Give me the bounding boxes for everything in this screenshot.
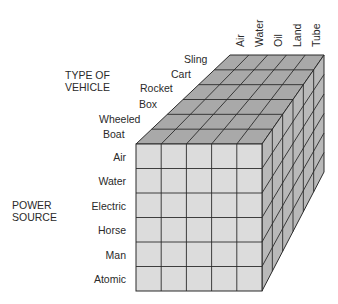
power-source-title: POWER SOURCE [12, 199, 57, 223]
medium-label-tube: Tube [310, 23, 322, 47]
type-of-vehicle-title: TYPE OF VEHICLE [65, 69, 110, 93]
power-label-electric: Electric [92, 200, 126, 212]
vehicle-label-box: Box [139, 98, 157, 110]
vehicle-label-sling: Sling [184, 53, 207, 65]
power-label-man: Man [106, 249, 126, 261]
vehicle-label-wheeled: Wheeled [99, 113, 140, 125]
power-label-water: Water [98, 175, 126, 187]
power-label-horse: Horse [98, 224, 126, 236]
vehicle-label-cart: Cart [171, 68, 191, 80]
medium-label-air: Air [234, 34, 246, 47]
medium-label-water: Water [253, 19, 265, 47]
morphological-cube [0, 0, 338, 304]
medium-label-oil: Oil [272, 34, 284, 47]
medium-label-land: Land [291, 24, 303, 47]
vehicle-label-boat: Boat [103, 128, 125, 140]
power-label-air: Air [113, 151, 126, 163]
power-label-atomic: Atomic [94, 273, 126, 285]
vehicle-label-rocket: Rocket [140, 82, 173, 94]
